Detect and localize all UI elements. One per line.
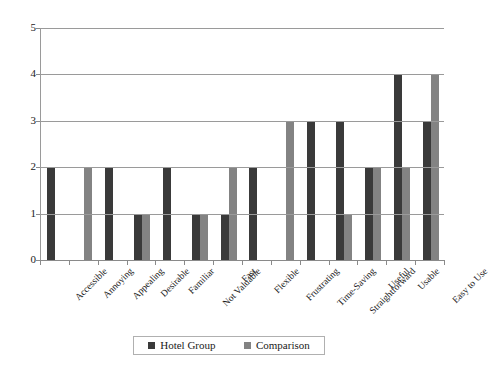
gridline-1 <box>41 214 444 215</box>
x-axis-label: Familiar <box>186 266 216 296</box>
gridline-5 <box>41 28 444 29</box>
legend-item[interactable]: Comparison <box>244 340 310 351</box>
legend-label: Comparison <box>256 340 310 351</box>
bar-comparison <box>286 121 294 260</box>
x-axis-label: Usable <box>415 266 441 292</box>
gridline-2 <box>41 167 444 168</box>
bar-comparison <box>344 214 352 260</box>
x-axis-label: Easy to Use <box>450 266 489 305</box>
y-tick-label-4: 4 <box>6 68 36 79</box>
bar-hotel-group <box>423 121 431 260</box>
legend-item[interactable]: Hotel Group <box>148 340 215 351</box>
x-axis-label: Frustrating <box>304 266 341 303</box>
chart-legend: Hotel GroupComparison <box>133 336 325 355</box>
legend-label: Hotel Group <box>160 340 215 351</box>
x-axis-label: Time-Saving <box>336 266 378 308</box>
bar-hotel-group <box>336 121 344 260</box>
y-tick-label-2: 2 <box>6 161 36 172</box>
gridline-3 <box>41 121 444 122</box>
bars-layer <box>41 28 444 260</box>
bar-hotel-group <box>307 121 315 260</box>
x-axis-labels: AccessibleAnnoyingAppealingDesirableFami… <box>0 262 452 322</box>
x-axis-label: Flexible <box>273 266 302 295</box>
bar-hotel-group <box>221 214 229 260</box>
bar-comparison <box>200 214 208 260</box>
plot-area <box>40 28 444 260</box>
bar-comparison <box>142 214 150 260</box>
bar-hotel-group <box>192 214 200 260</box>
x-axis-label: Appealing <box>131 266 166 301</box>
bar-hotel-group <box>134 214 142 260</box>
y-tick-label-1: 1 <box>6 208 36 219</box>
y-tick-label-3: 3 <box>6 115 36 126</box>
legend-swatch-icon <box>148 342 155 349</box>
legend-swatch-icon <box>244 342 251 349</box>
gridline-4 <box>41 74 444 75</box>
y-tick-label-5: 5 <box>6 22 36 33</box>
